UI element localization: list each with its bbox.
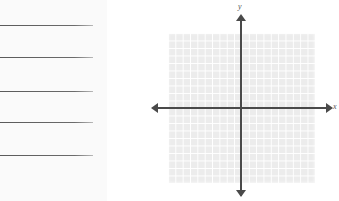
- x-axis-left-arrow-icon: [151, 103, 158, 113]
- y-axis-label: y: [238, 3, 242, 11]
- y-axis-line: [240, 20, 242, 196]
- rule-line[interactable]: [0, 155, 93, 156]
- y-axis-up-arrow-icon: [236, 14, 246, 21]
- ruled-answer-panel[interactable]: [0, 0, 107, 201]
- rule-line[interactable]: [0, 91, 93, 92]
- x-axis-right-arrow-icon: [326, 103, 333, 113]
- rule-line[interactable]: [0, 57, 93, 58]
- y-axis-down-arrow-icon: [236, 190, 246, 197]
- x-axis-label: x: [333, 103, 337, 111]
- rule-line[interactable]: [0, 25, 93, 26]
- rule-line[interactable]: [0, 122, 93, 123]
- worksheet-canvas: y x: [0, 0, 339, 201]
- coordinate-graph-figure[interactable]: y x: [140, 0, 339, 201]
